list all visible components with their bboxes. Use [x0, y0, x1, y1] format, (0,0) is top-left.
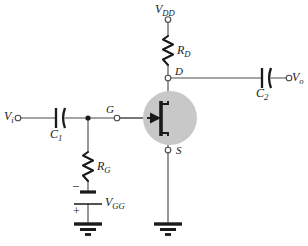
terminal-drain[interactable] [165, 75, 171, 81]
terminal-vi[interactable] [15, 115, 21, 121]
label-rg: RG [97, 160, 110, 175]
terminal-gate[interactable] [114, 115, 120, 121]
battery-positive-sign: + [73, 205, 80, 217]
capacitor-c2 [262, 68, 271, 88]
ground-symbol-source [154, 224, 182, 235]
terminal-source[interactable] [165, 147, 171, 153]
junction-dot-gate-node [85, 115, 90, 120]
label-rd: RD [177, 44, 190, 59]
resistor-rd [163, 36, 173, 65]
capacitor-c1 [56, 108, 65, 128]
label-node-gate: G [106, 104, 114, 115]
terminal-vo[interactable] [286, 75, 292, 81]
label-node-drain: D [175, 66, 183, 77]
label-vi: Vi [4, 110, 14, 125]
label-node-source: S [176, 145, 182, 156]
circuit-diagram-figure: VDD RD D C2 Vo Vi C1 G S RG − + VGG [0, 0, 308, 246]
label-c2: C2 [256, 87, 268, 102]
label-c1: C1 [50, 128, 62, 143]
jfet-transistor [143, 91, 197, 145]
schematic-svg [0, 0, 308, 246]
resistor-rg [83, 152, 93, 181]
ground-symbol-gate [74, 224, 102, 235]
label-vgg: VGG [105, 196, 124, 211]
label-vdd: VDD [155, 3, 174, 18]
label-vo: Vo [292, 71, 303, 86]
battery-negative-sign: − [72, 180, 79, 193]
